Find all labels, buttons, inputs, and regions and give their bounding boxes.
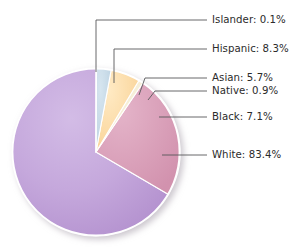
pie-chart-figure: Islander: 0.1% Hispanic: 8.3% Asian: 5.7…	[0, 0, 297, 252]
pie-label-white: White: 83.4%	[212, 149, 282, 160]
pie-label-islander: Islander: 0.1%	[212, 14, 286, 25]
pie-label-black: Black: 7.1%	[212, 111, 273, 122]
pie-label-native: Native: 0.9%	[212, 85, 278, 96]
pie-label-hispanic: Hispanic: 8.3%	[212, 43, 289, 54]
pie-chart-svg: Islander: 0.1% Hispanic: 8.3% Asian: 5.7…	[0, 0, 297, 252]
pie-slice-islander[interactable]	[96, 68, 97, 152]
pie-label-asian: Asian: 5.7%	[212, 72, 273, 83]
